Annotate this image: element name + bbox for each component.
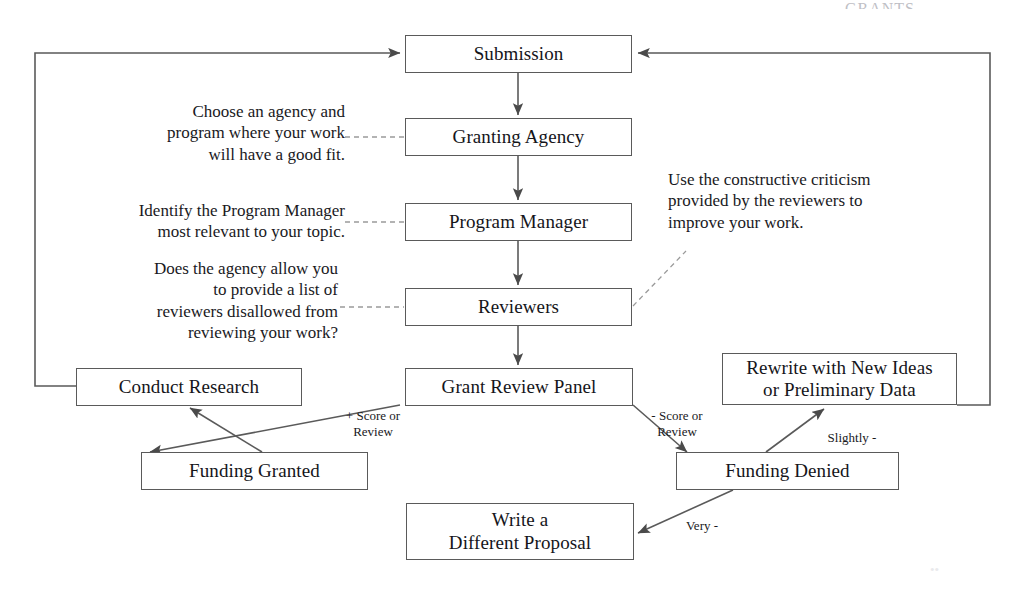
edge-label-negative-score: - Score or Review xyxy=(637,408,717,439)
node-submission[interactable]: Submission xyxy=(405,35,632,73)
node-write-different-proposal[interactable]: Write a Different Proposal xyxy=(406,503,634,560)
flowchart-canvas: GRANTS xyxy=(0,0,1016,598)
node-grant-review-panel[interactable]: Grant Review Panel xyxy=(405,368,633,406)
edge-label-very-negative: Very - xyxy=(672,518,732,534)
annotation-reviewers: Does the agency allow you to provide a l… xyxy=(80,258,338,344)
node-rewrite-new-ideas-label: Rewrite with New Ideas or Preliminary Da… xyxy=(746,357,932,401)
node-program-manager-label: Program Manager xyxy=(449,211,588,232)
node-granting-agency[interactable]: Granting Agency xyxy=(405,118,632,156)
node-funding-granted[interactable]: Funding Granted xyxy=(141,452,368,490)
node-conduct-research-label: Conduct Research xyxy=(119,376,259,397)
node-grant-review-panel-label: Grant Review Panel xyxy=(442,376,597,397)
node-program-manager[interactable]: Program Manager xyxy=(405,203,632,241)
annotation-granting-agency: Choose an agency and program where your … xyxy=(100,101,345,165)
node-granting-agency-label: Granting Agency xyxy=(453,126,585,147)
node-conduct-research[interactable]: Conduct Research xyxy=(76,368,302,406)
node-reviewers[interactable]: Reviewers xyxy=(405,288,632,326)
node-write-different-proposal-label: Write a Different Proposal xyxy=(449,509,591,553)
annotation-program-manager: Identify the Program Manager most releva… xyxy=(75,200,345,243)
node-rewrite-new-ideas[interactable]: Rewrite with New Ideas or Preliminary Da… xyxy=(722,353,957,405)
node-reviewers-label: Reviewers xyxy=(478,296,559,317)
edge-label-slightly-negative: Slightly - xyxy=(812,430,892,446)
scan-artifact: •• xyxy=(930,562,939,578)
node-funding-denied[interactable]: Funding Denied xyxy=(676,452,899,490)
edge-label-positive-score: + Score or Review xyxy=(333,408,413,439)
node-submission-label: Submission xyxy=(474,43,564,64)
leader-criticism xyxy=(633,251,686,306)
node-funding-granted-label: Funding Granted xyxy=(189,460,320,481)
node-funding-denied-label: Funding Denied xyxy=(725,460,849,481)
annotation-constructive-criticism: Use the constructive criticism provided … xyxy=(668,169,928,233)
